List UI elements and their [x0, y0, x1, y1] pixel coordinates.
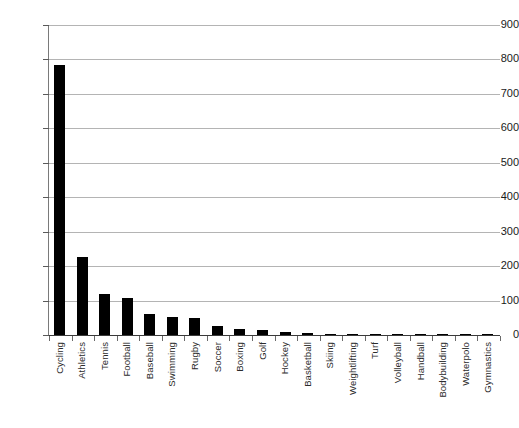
bar-slot: [365, 25, 386, 335]
x-tick-label-text: Hockey: [280, 342, 290, 374]
bar: [54, 65, 65, 335]
bar: [325, 334, 336, 335]
bar-chart: 9008007006005004003002001000 CyclingAthl…: [0, 0, 519, 428]
x-tick-mark: [410, 336, 411, 341]
bar-slot: [477, 25, 498, 335]
bar: [302, 333, 313, 335]
x-tick-label-text: Football: [123, 342, 133, 377]
x-tick-label-text: Tennis: [100, 342, 110, 370]
bar: [257, 330, 268, 336]
x-tick-label: Bodybuilding: [432, 342, 453, 428]
x-tick-label-text: Soccer: [213, 342, 223, 372]
x-tick-mark: [162, 336, 163, 341]
bar: [212, 326, 223, 335]
x-tick-label: Weightlifting: [342, 342, 363, 428]
x-tick-label-text: Swimming: [168, 342, 178, 387]
bar-slot: [139, 25, 160, 335]
bar-slot: [49, 25, 70, 335]
x-tick-mark: [252, 336, 253, 341]
x-tick-mark: [275, 336, 276, 341]
x-tick-label: Soccer: [207, 342, 228, 428]
x-tick-mark: [365, 336, 366, 341]
bar-slot: [94, 25, 115, 335]
x-tick-label-text: Cycling: [55, 342, 65, 374]
x-tick-label: Handball: [410, 342, 431, 428]
bar-slot: [387, 25, 408, 335]
bar: [167, 317, 178, 335]
x-tick-label: Football: [117, 342, 138, 428]
x-tick-label-text: Baseball: [145, 342, 155, 379]
x-tick-mark: [297, 336, 298, 341]
bar: [437, 334, 448, 335]
x-tick-label-text: Golf: [258, 342, 268, 360]
bar-slot: [410, 25, 431, 335]
x-axis-ticks: [49, 336, 500, 341]
x-tick-mark: [320, 336, 321, 341]
x-tick-label-text: Turf: [371, 342, 381, 359]
x-tick-mark: [139, 336, 140, 341]
bar-slot: [229, 25, 250, 335]
x-tick-mark: [72, 336, 73, 341]
bar: [99, 294, 110, 335]
bar-slot: [432, 25, 453, 335]
bar: [234, 329, 245, 335]
x-tick-label-text: Waterpolo: [461, 342, 471, 386]
x-tick-label: Turf: [365, 342, 386, 428]
bar: [370, 334, 381, 335]
bar: [122, 298, 133, 335]
x-tick-label-text: Handball: [416, 342, 426, 380]
bar: [77, 257, 88, 335]
x-tick-label: Golf: [252, 342, 273, 428]
x-tick-label: Basketball: [297, 342, 318, 428]
x-tick-label: Swimming: [162, 342, 183, 428]
x-tick-mark: [342, 336, 343, 341]
bar-slot: [342, 25, 363, 335]
x-tick-label-text: Rugby: [190, 342, 200, 370]
x-tick-label: Gymnastics: [477, 342, 498, 428]
x-tick-label-text: Athletics: [78, 342, 88, 379]
x-tick-label: Waterpolo: [455, 342, 476, 428]
bar-slot: [320, 25, 341, 335]
bar: [144, 314, 155, 335]
bar-slot: [162, 25, 183, 335]
x-tick-label-text: Weightlifting: [348, 342, 358, 395]
x-tick-mark: [117, 336, 118, 341]
bars-layer: [49, 25, 500, 335]
x-tick-label: Boxing: [229, 342, 250, 428]
x-tick-label: Athletics: [72, 342, 93, 428]
x-tick-label: Hockey: [275, 342, 296, 428]
x-tick-mark: [94, 336, 95, 341]
x-tick-label: Tennis: [94, 342, 115, 428]
bar: [392, 334, 403, 335]
x-tick-mark: [500, 336, 501, 341]
bar: [482, 334, 493, 335]
x-tick-label-text: Skiing: [326, 342, 336, 368]
bar: [280, 332, 291, 335]
bar: [189, 318, 200, 335]
x-tick-label: Skiing: [320, 342, 341, 428]
bar-slot: [72, 25, 93, 335]
bar-slot: [207, 25, 228, 335]
x-tick-mark: [49, 336, 50, 341]
bar-slot: [252, 25, 273, 335]
bar-slot: [117, 25, 138, 335]
x-tick-mark: [387, 336, 388, 341]
x-tick-label-text: Boxing: [235, 342, 245, 372]
bar: [415, 334, 426, 335]
x-tick-label: Baseball: [139, 342, 160, 428]
x-tick-label-text: Basketball: [303, 342, 313, 387]
bar: [460, 334, 471, 335]
x-tick-mark: [477, 336, 478, 341]
x-tick-mark: [229, 336, 230, 341]
bar: [347, 334, 358, 335]
bar-slot: [455, 25, 476, 335]
x-tick-label: Volleyball: [387, 342, 408, 428]
x-tick-label: Cycling: [49, 342, 70, 428]
bar-slot: [184, 25, 205, 335]
x-axis-labels: CyclingAthleticsTennisFootballBaseballSw…: [49, 342, 500, 428]
x-tick-mark: [207, 336, 208, 341]
x-tick-mark: [184, 336, 185, 341]
x-tick-label: Rugby: [184, 342, 205, 428]
x-tick-label-text: Bodybuilding: [438, 342, 448, 398]
x-tick-label-text: Gymnastics: [483, 342, 493, 393]
